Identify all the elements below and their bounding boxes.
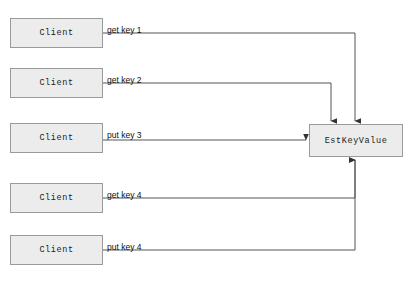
edge-put-key-4 [103,160,355,250]
node-client-2[interactable]: Client [10,68,103,98]
node-client-2-label: Client [39,78,73,88]
node-client-3-label: Client [39,133,73,143]
node-client-5-label: Client [39,245,73,255]
edge-label-get-key-1: get key 1 [107,26,142,35]
node-key-value-store-label: EstKeyValue [325,136,388,146]
edge-path-put-key-4 [103,160,355,250]
node-client-3[interactable]: Client [10,123,103,153]
edge-get-key-2 [103,83,331,121]
node-key-value-store[interactable]: EstKeyValue [309,124,403,157]
edge-label-get-key-4: get key 4 [107,191,142,200]
node-client-1-label: Client [39,28,73,38]
edge-label-put-key-4: put key 4 [107,243,142,252]
edge-label-get-key-2: get key 2 [107,76,142,85]
edge-label-put-key-3: put key 3 [107,131,142,140]
node-client-4[interactable]: Client [10,183,103,213]
node-client-1[interactable]: Client [10,18,103,48]
node-client-5[interactable]: Client [10,235,103,265]
diagram-canvas: Client Client Client Client Client EstKe… [0,0,413,281]
edge-path-get-key-2 [103,83,331,121]
node-client-4-label: Client [39,193,73,203]
